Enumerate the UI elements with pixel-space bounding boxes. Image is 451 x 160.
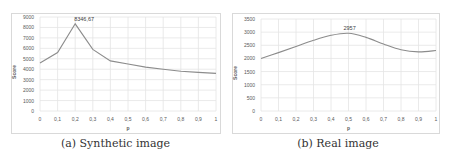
svg-text:500: 500 <box>247 95 256 101</box>
svg-text:0,5: 0,5 <box>345 116 352 122</box>
y-axis-label: Score <box>11 65 17 79</box>
svg-text:0,7: 0,7 <box>160 116 167 122</box>
svg-text:0: 0 <box>31 108 34 114</box>
svg-text:2000: 2000 <box>244 55 255 61</box>
x-axis-label: p <box>126 125 129 131</box>
svg-text:6000: 6000 <box>23 45 34 51</box>
svg-text:1000: 1000 <box>23 98 34 104</box>
svg-text:0,3: 0,3 <box>89 116 96 122</box>
chart-svg: 050010001500200025003000350000,10,20,30,… <box>232 0 440 134</box>
caption-real-image: (b) Real image <box>225 137 451 150</box>
svg-text:0,4: 0,4 <box>328 116 335 122</box>
svg-text:1: 1 <box>435 116 438 122</box>
svg-text:0,6: 0,6 <box>363 116 370 122</box>
svg-text:7000: 7000 <box>23 35 34 41</box>
svg-text:1: 1 <box>215 116 218 122</box>
svg-text:0,2: 0,2 <box>293 116 300 122</box>
svg-text:0,9: 0,9 <box>195 116 202 122</box>
svg-text:0,9: 0,9 <box>415 116 422 122</box>
svg-text:3500: 3500 <box>244 16 255 22</box>
x-axis-label: p <box>347 125 350 131</box>
svg-text:4000: 4000 <box>23 66 34 72</box>
caption-synthetic-image: (a) Synthetic image <box>0 137 231 150</box>
svg-text:9000: 9000 <box>23 14 34 20</box>
svg-text:3000: 3000 <box>23 77 34 83</box>
svg-text:0,3: 0,3 <box>310 116 317 122</box>
svg-text:2000: 2000 <box>23 87 34 93</box>
svg-text:2500: 2500 <box>244 42 255 48</box>
y-axis-label: Score <box>232 66 238 80</box>
svg-text:0,8: 0,8 <box>398 116 405 122</box>
svg-text:0,5: 0,5 <box>125 116 132 122</box>
chart-svg: 010002000300040005000600070008000900000,… <box>11 0 221 134</box>
peak-annotation: 8346,67 <box>74 16 94 22</box>
peak-annotation: 2957 <box>344 25 356 31</box>
svg-text:0,7: 0,7 <box>380 116 387 122</box>
svg-text:0: 0 <box>39 116 42 122</box>
chart-frame <box>12 14 221 134</box>
real-image-chart: 050010001500200025003000350000,10,20,30,… <box>232 0 440 134</box>
svg-text:5000: 5000 <box>23 56 34 62</box>
svg-text:0,1: 0,1 <box>54 116 61 122</box>
svg-text:0,2: 0,2 <box>72 116 79 122</box>
svg-text:3000: 3000 <box>244 29 255 35</box>
svg-text:1500: 1500 <box>244 69 255 75</box>
svg-text:0,8: 0,8 <box>177 116 184 122</box>
chart-frame <box>233 14 440 134</box>
svg-text:0,1: 0,1 <box>275 116 282 122</box>
synthetic-image-chart: 010002000300040005000600070008000900000,… <box>11 0 221 134</box>
svg-text:0: 0 <box>252 108 255 114</box>
svg-text:1000: 1000 <box>244 82 255 88</box>
svg-text:8000: 8000 <box>23 24 34 30</box>
svg-text:0: 0 <box>260 116 263 122</box>
svg-text:0,4: 0,4 <box>107 116 114 122</box>
svg-text:0,6: 0,6 <box>142 116 149 122</box>
